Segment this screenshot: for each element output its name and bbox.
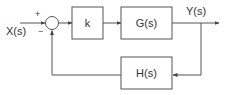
plus-sign: +	[35, 9, 40, 19]
input-label: X(s)	[6, 25, 26, 37]
summing-junction	[46, 17, 59, 30]
feedback-branch-line	[173, 23, 201, 75]
output-label: Y(s)	[186, 5, 206, 17]
feedback-return-line	[52, 31, 121, 76]
g-block-label: G(s)	[136, 17, 157, 29]
block-diagram: + − X(s) k G(s) H(s) Y(s)	[0, 0, 231, 95]
h-block-label: H(s)	[136, 67, 157, 79]
minus-sign: −	[38, 26, 43, 36]
k-block-label: k	[85, 17, 91, 29]
